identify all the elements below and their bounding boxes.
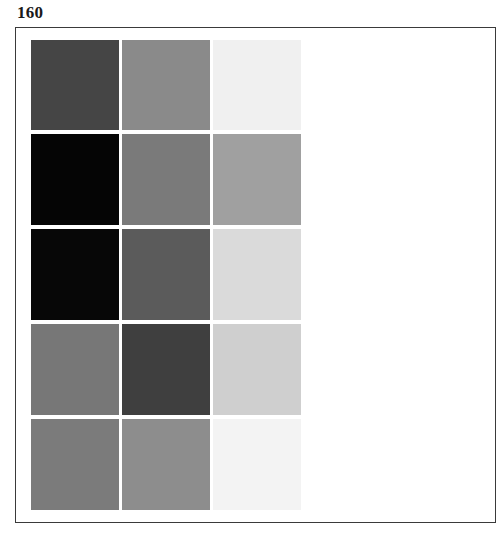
swatch-r5-c3: [213, 419, 301, 510]
swatch-r3-c1: [31, 229, 119, 320]
swatch-r1-c3: [213, 40, 301, 130]
swatch-r5-c2: [122, 419, 210, 510]
swatch-r1-c1: [31, 40, 119, 130]
swatch-r2-c3: [213, 134, 301, 225]
swatch-r4-c1: [31, 324, 119, 415]
swatch-r2-c2: [122, 134, 210, 225]
swatch-r3-c3: [213, 229, 301, 320]
swatch-r4-c2: [122, 324, 210, 415]
swatch-r2-c1: [31, 134, 119, 225]
swatch-r5-c1: [31, 419, 119, 510]
swatch-r4-c3: [213, 324, 301, 415]
swatch-r1-c2: [122, 40, 210, 130]
gray-swatch-grid: [31, 40, 301, 510]
swatch-r3-c2: [122, 229, 210, 320]
page-number: 160: [17, 3, 43, 23]
